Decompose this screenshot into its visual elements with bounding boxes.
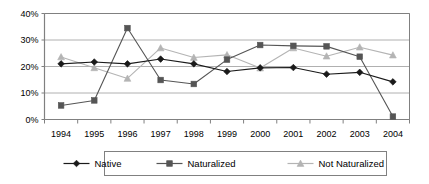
data-point-marker <box>91 98 97 104</box>
data-point-marker <box>291 43 297 49</box>
data-point-marker <box>167 161 173 167</box>
chart-legend: NativeNaturalizedNot Naturalized <box>64 152 387 176</box>
data-point-marker <box>158 77 164 83</box>
x-axis-tick-labels: 1994199519961997199819992000200120022003… <box>51 129 403 139</box>
data-point-marker <box>257 42 263 48</box>
data-point-marker <box>191 81 197 87</box>
y-axis-tick-label: 0% <box>25 115 38 125</box>
x-axis-tick-label: 1995 <box>84 129 104 139</box>
x-axis-tick-label: 1994 <box>51 129 71 139</box>
x-axis-tick-label: 1998 <box>184 129 204 139</box>
x-axis-tick-label: 2004 <box>383 129 403 139</box>
legend-item-label: Naturalized <box>188 158 236 169</box>
data-point-marker <box>324 44 330 50</box>
y-axis-tick-label: 10% <box>20 88 38 98</box>
data-point-marker <box>125 25 131 31</box>
y-axis-tick-label: 30% <box>20 35 38 45</box>
legend-item-label: Not Naturalized <box>319 158 384 169</box>
data-point-marker <box>357 54 363 60</box>
y-axis-tick-label: 40% <box>20 9 38 19</box>
legend-item-label: Native <box>95 158 122 169</box>
x-axis-tick-label: 1999 <box>217 129 237 139</box>
line-chart: 0%10%20%30%40% 1994199519961997199819992… <box>0 0 429 184</box>
x-axis-tick-label: 2003 <box>350 129 370 139</box>
x-axis-tick-label: 2002 <box>317 129 337 139</box>
data-point-marker <box>58 103 64 109</box>
chart-canvas: 0%10%20%30%40% 1994199519961997199819992… <box>0 0 429 184</box>
data-point-marker <box>390 114 396 120</box>
y-axis-tick-label: 20% <box>20 62 38 72</box>
x-axis-tick-label: 2001 <box>283 129 303 139</box>
x-axis-tick-label: 1996 <box>117 129 137 139</box>
x-axis-tick-label: 1997 <box>151 129 171 139</box>
x-axis-tick-label: 2000 <box>250 129 270 139</box>
data-point-marker <box>224 57 230 63</box>
